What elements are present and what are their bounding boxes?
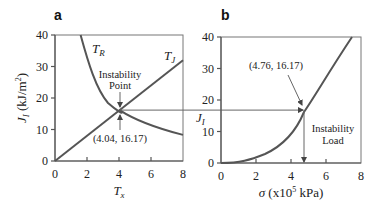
panel-a: a 0 10 20 30 40 0 2 4 6 8 bbox=[14, 7, 186, 200]
tj-curve-label: TJ bbox=[164, 48, 176, 65]
panel-a-ytick-label: 0 bbox=[42, 154, 48, 168]
panel-a-x-axis-label: Tx bbox=[113, 183, 124, 200]
panel-a-ytick-label: 30 bbox=[36, 60, 48, 74]
instability-load-label-line1: Instability bbox=[312, 123, 355, 134]
panel-a-xtick-label: 2 bbox=[84, 167, 90, 181]
panel-b-y-ticks: 0 10 20 30 40 bbox=[202, 30, 221, 170]
instability-load-coords: (4.76, 16.17) bbox=[249, 60, 304, 72]
instability-point-label-line2: Point bbox=[109, 80, 131, 91]
figure: a 0 10 20 30 40 0 2 4 6 8 bbox=[0, 0, 381, 210]
panel-b-x-axis-label: σ (x105 kPa) bbox=[259, 185, 324, 200]
instability-point-label-line1: Instability bbox=[99, 69, 142, 80]
panel-b-xtick-label: 6 bbox=[323, 169, 329, 183]
panel-a-y-axis-label: JI (kJ/m2) bbox=[14, 73, 31, 123]
panel-b-ytick-label: 40 bbox=[202, 30, 214, 44]
instability-point-coords: (4.04, 16.17) bbox=[93, 133, 148, 145]
panel-b-xtick-label: 2 bbox=[253, 169, 259, 183]
panel-a-xtick-label: 6 bbox=[148, 167, 154, 181]
panel-b-y-axis-label: JI bbox=[196, 110, 206, 127]
panel-b-xtick-label: 8 bbox=[358, 169, 364, 183]
panel-b-ytick-label: 20 bbox=[202, 93, 214, 107]
panel-b-xtick-label: 4 bbox=[288, 169, 294, 183]
panel-b: b 0 10 20 30 40 0 2 4 6 8 bbox=[196, 7, 364, 200]
tr-curve-label: TR bbox=[92, 41, 105, 58]
panel-a-ytick-label: 10 bbox=[36, 123, 48, 137]
panel-a-ytick-label: 20 bbox=[36, 91, 48, 105]
panel-a-xtick-label: 8 bbox=[180, 167, 186, 181]
panel-a-xtick-label: 0 bbox=[52, 167, 58, 181]
panel-a-xtick-label: 4 bbox=[116, 167, 122, 181]
panel-b-ytick-label: 0 bbox=[208, 156, 214, 170]
panel-a-y-ticks: 0 10 20 30 40 bbox=[36, 28, 55, 168]
panel-a-ytick-label: 40 bbox=[36, 28, 48, 42]
instability-load-label-line2: Load bbox=[322, 135, 344, 146]
coords-arrow bbox=[288, 75, 302, 105]
panel-b-letter: b bbox=[221, 7, 230, 23]
panel-b-xtick-label: 0 bbox=[218, 169, 224, 183]
panel-a-letter: a bbox=[54, 7, 62, 23]
panel-b-ytick-label: 30 bbox=[202, 62, 214, 76]
